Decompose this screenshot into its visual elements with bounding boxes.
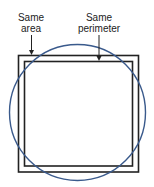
diagram: Same area Same perimeter <box>0 0 154 187</box>
same-perimeter-label-line2: perimeter <box>78 23 121 34</box>
same-area-label-line1: Same <box>18 12 45 23</box>
same-perimeter-label-line1: Same <box>86 12 113 23</box>
circle <box>10 45 146 181</box>
outer-square-same-area <box>19 56 139 173</box>
same-perimeter-arrowhead-icon <box>97 56 102 61</box>
same-area-label-line2: area <box>21 23 41 34</box>
same-area-arrowhead-icon <box>29 50 34 55</box>
inner-square-same-perimeter <box>25 62 133 167</box>
